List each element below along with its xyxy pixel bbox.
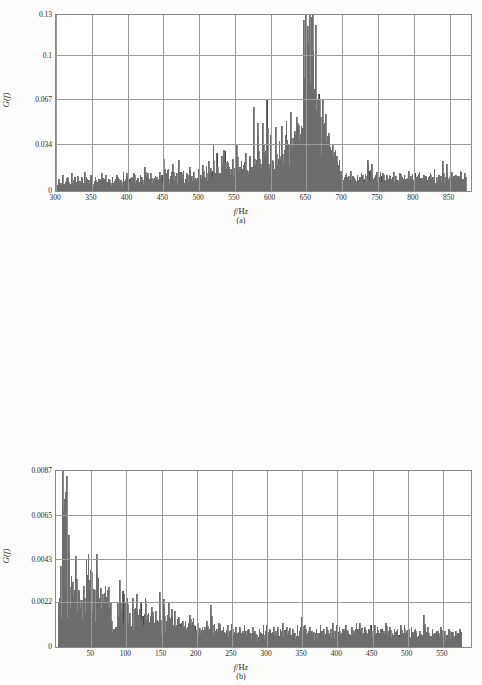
figure-container: G(f) 00.0340.0670.10.13 3003504004505005… bbox=[0, 0, 482, 685]
gridline-vertical bbox=[342, 15, 343, 191]
bar-series-a bbox=[56, 15, 471, 191]
panel-a: G(f) 00.0340.0670.10.13 3003504004505005… bbox=[0, 0, 482, 228]
x-tick-label: 450 bbox=[157, 193, 168, 202]
x-tick-label: 500 bbox=[192, 193, 203, 202]
gridline-vertical bbox=[306, 15, 307, 191]
x-tick-label: 650 bbox=[300, 193, 311, 202]
y-tick-label: 0.13 bbox=[4, 10, 52, 19]
plot-area-a bbox=[55, 14, 472, 192]
gridline-vertical bbox=[128, 15, 129, 191]
panel-c: G(f) 00.0920.180.280.37 5010015020025030… bbox=[0, 456, 482, 684]
x-tick-label: 750 bbox=[371, 193, 382, 202]
plot-a-wrap: G(f) 00.0340.0670.10.13 3003504004505005… bbox=[0, 0, 482, 228]
x-axis-label-a: f/Hz bbox=[0, 206, 482, 216]
x-tick-label: 550 bbox=[228, 193, 239, 202]
x-tick-label: 800 bbox=[407, 193, 418, 202]
x-tick-label: 300 bbox=[49, 193, 60, 202]
x-tick-label: 600 bbox=[264, 193, 275, 202]
y-tick-label: 0.067 bbox=[4, 95, 52, 104]
gridline-vertical bbox=[378, 15, 379, 191]
y-tick-column-a: 00.0340.0670.10.13 bbox=[0, 0, 52, 228]
gridline-vertical bbox=[56, 15, 57, 191]
gridline-vertical bbox=[92, 15, 93, 191]
gridline-vertical bbox=[199, 15, 200, 191]
spectrum-bar bbox=[465, 181, 467, 191]
gridline-horizontal bbox=[56, 99, 471, 100]
x-tick-label: 700 bbox=[336, 193, 347, 202]
gridline-vertical bbox=[235, 15, 236, 191]
gridline-vertical bbox=[450, 15, 451, 191]
gridline-horizontal bbox=[56, 144, 471, 145]
x-tick-label: 350 bbox=[85, 193, 96, 202]
y-tick-label: 0 bbox=[4, 186, 52, 195]
y-tick-label: 0.034 bbox=[4, 139, 52, 148]
panel-b: G(f) 00.00220.00430.00650.0087 501001502… bbox=[0, 228, 482, 456]
x-tick-label: 400 bbox=[121, 193, 132, 202]
gridline-vertical bbox=[414, 15, 415, 191]
x-tick-label: 850 bbox=[443, 193, 454, 202]
y-tick-label: 0.1 bbox=[4, 50, 52, 59]
caption-a: (a) bbox=[0, 216, 482, 225]
gridline-vertical bbox=[271, 15, 272, 191]
x-tick-row-a: 300350400450500550600650700750800850 bbox=[55, 193, 470, 205]
gridline-vertical bbox=[163, 15, 164, 191]
gridline-horizontal bbox=[56, 55, 471, 56]
